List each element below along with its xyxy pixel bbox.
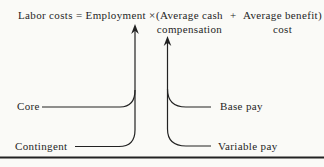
formula-benefit-line1: Average benefit): [243, 8, 322, 22]
formula-cash-line2: compensation: [151, 22, 228, 36]
base-pay-label: Base pay: [220, 99, 263, 113]
formula-benefit-line2: cost: [243, 22, 322, 36]
formula-benefit-term: Average benefit) cost: [243, 8, 322, 36]
core-label: Core: [17, 99, 40, 113]
variable-pay-label: Variable pay: [218, 139, 277, 153]
formula-cash-term: (Average cash compensation: [151, 8, 228, 36]
contingent-label: Contingent: [15, 139, 67, 153]
formula-lead: Labor costs = Employment ×: [18, 8, 156, 22]
bottom-rule: [0, 157, 324, 159]
core-connector-line: [42, 90, 135, 107]
base-pay-connector-line: [168, 89, 212, 107]
employment-arrow-shaft: [75, 28, 135, 147]
labor-costs-figure: Labor costs = Employment × (Average cash…: [0, 0, 324, 167]
compensation-arrow-shaft: [168, 40, 212, 146]
formula-plus-sign: +: [230, 8, 237, 22]
formula-cash-line1: (Average cash: [151, 8, 228, 22]
